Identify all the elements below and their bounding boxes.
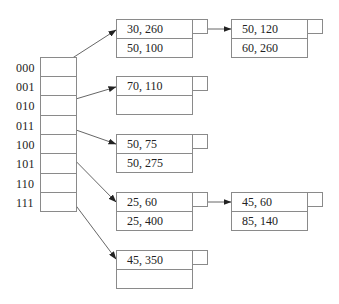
overflow-bucket-100: 45, 60 85, 140 (231, 192, 308, 231)
directory-cell-000 (40, 57, 77, 77)
directory-cell-010 (40, 95, 77, 116)
bucket-record: 50, 275 (116, 153, 193, 173)
bucket-record: 60, 260 (231, 38, 308, 58)
directory-cell-110 (40, 173, 77, 193)
directory-label: 000 (16, 59, 38, 78)
directory-label: 101 (16, 155, 38, 174)
overflow-pointer-box (192, 19, 208, 34)
overflow-pointer-box (307, 192, 323, 207)
bucket-record: 45, 350 (116, 250, 193, 270)
overflow-pointer-box (307, 19, 323, 34)
bucket-record: 30, 260 (116, 19, 193, 39)
overflow-bucket-000: 50, 120 60, 260 (231, 19, 308, 58)
directory-cell-011 (40, 115, 77, 135)
directory-label: 110 (16, 175, 38, 194)
bucket-record: 50, 120 (231, 19, 308, 39)
bucket-record (116, 95, 193, 115)
bucket-record: 45, 60 (231, 192, 308, 212)
directory-cell-001 (40, 76, 77, 96)
overflow-pointer-box (192, 250, 208, 265)
directory-label: 011 (16, 117, 38, 136)
bucket-000: 30, 260 50, 100 (116, 19, 193, 58)
bucket-010: 70, 110 (116, 76, 193, 115)
bucket-011: 50, 75 50, 275 (116, 134, 193, 173)
directory-cell-101 (40, 153, 77, 174)
extendible-hashing-diagram: 000 001 010 011 100 101 110 111 30, 260 … (0, 0, 339, 304)
directory-label: 010 (16, 97, 38, 116)
bucket-record: 85, 140 (231, 211, 308, 231)
bucket-record: 25, 400 (116, 211, 193, 231)
bucket-record: 50, 100 (116, 38, 193, 58)
bucket-100: 25, 60 25, 400 (116, 192, 193, 231)
bucket-record: 70, 110 (116, 76, 193, 96)
overflow-pointer-box (192, 134, 208, 149)
directory-cell-111 (40, 192, 77, 212)
bucket-110: 45, 350 (116, 250, 193, 289)
bucket-record (116, 269, 193, 289)
bucket-record: 50, 75 (116, 134, 193, 154)
overflow-pointer-box (192, 192, 208, 207)
directory-cell-100 (40, 134, 77, 154)
directory-label: 001 (16, 78, 38, 97)
bucket-record: 25, 60 (116, 192, 193, 212)
directory-label: 100 (16, 136, 38, 155)
directory-label: 111 (16, 194, 38, 213)
overflow-pointer-box (192, 76, 208, 91)
